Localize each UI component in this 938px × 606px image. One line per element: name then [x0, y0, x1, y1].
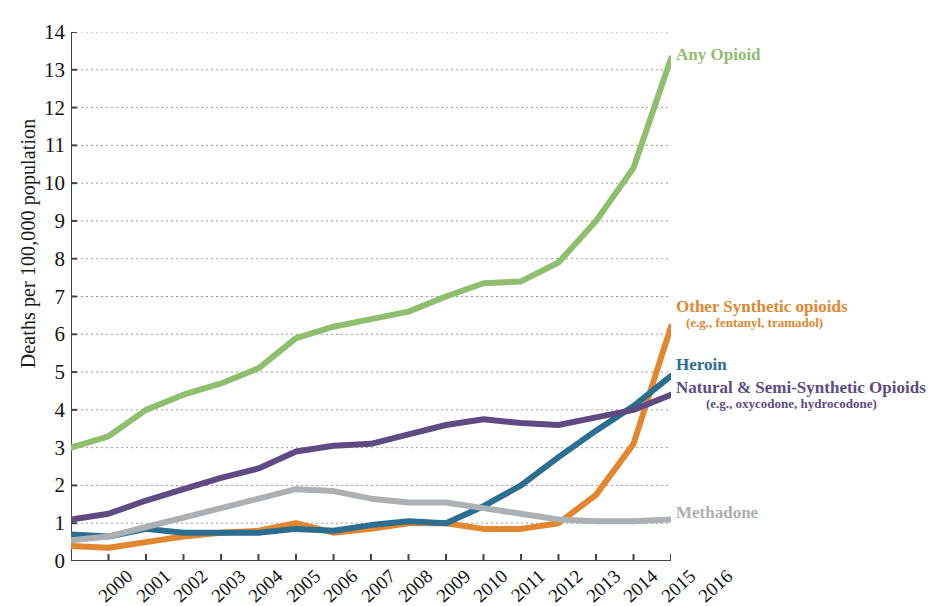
- x-tick-label: 2015: [657, 566, 698, 606]
- y-tick-label: 7: [19, 286, 65, 307]
- y-tick-label: 10: [19, 173, 65, 194]
- series-line-any-opioid: [71, 58, 671, 447]
- y-tick-label: 3: [19, 437, 65, 458]
- x-tick-label: 2007: [357, 566, 398, 606]
- x-tick-label: 2011: [507, 566, 547, 605]
- x-tick-label: 2012: [545, 566, 586, 606]
- series-label-methadone: Methadone: [676, 503, 758, 522]
- plot-svg: [71, 32, 671, 561]
- x-tick-label: 2003: [207, 566, 248, 606]
- x-tick-label: 2000: [95, 566, 136, 606]
- y-tick-label: 11: [19, 135, 65, 156]
- y-tick-label: 9: [19, 210, 65, 231]
- x-tick-label: 2010: [470, 566, 511, 606]
- y-tick-label: 13: [19, 59, 65, 80]
- x-tick-label: 2008: [395, 566, 436, 606]
- series-label-natural-semi-synthetic: Natural & Semi-Synthetic Opioids (e.g., …: [676, 378, 926, 412]
- series-label-other-synthetic: Other Synthetic opioids (e.g., fentanyl,…: [676, 297, 848, 331]
- x-tick-label: 2002: [170, 566, 211, 606]
- series-label-any-opioid: Any Opioid: [676, 45, 761, 64]
- y-tick-label: 8: [19, 248, 65, 269]
- series-label-other-synthetic-text: Other Synthetic opioids: [676, 297, 848, 316]
- x-tick-label: 2016: [695, 566, 736, 606]
- series-label-methadone-text: Methadone: [676, 503, 758, 522]
- x-tick-label: 2005: [282, 566, 323, 606]
- y-tick-label: 14: [19, 22, 65, 43]
- y-tick-label: 6: [19, 324, 65, 345]
- x-tick-label: 2006: [320, 566, 361, 606]
- y-tick-label: 4: [19, 399, 65, 420]
- series-line-other-synthetic-opioids: [71, 327, 671, 548]
- x-tick-label: 2009: [432, 566, 473, 606]
- y-tick-label: 5: [19, 362, 65, 383]
- x-axis-tick-labels: 2000200120022003200420052006200720082009…: [71, 566, 671, 606]
- series-label-natural-text: Natural & Semi-Synthetic Opioids: [676, 378, 926, 397]
- y-tick-label: 1: [19, 513, 65, 534]
- y-tick-label: 2: [19, 475, 65, 496]
- series-label-heroin-text: Heroin: [676, 355, 727, 374]
- x-tick-label: 2001: [132, 566, 173, 606]
- series-label-heroin: Heroin: [676, 355, 727, 374]
- series-label-other-synthetic-sub: (e.g., fentanyl, tramadol): [686, 316, 848, 331]
- x-tick-label: 2014: [620, 566, 661, 606]
- x-tick-label: 2004: [245, 566, 286, 606]
- series-label-any-opioid-text: Any Opioid: [676, 45, 761, 64]
- y-axis-tick-labels: 01234567891011121314: [17, 32, 65, 561]
- series-line-heroin: [71, 376, 671, 537]
- plot-area: [71, 32, 671, 561]
- y-tick-label: 0: [19, 551, 65, 572]
- x-tick-label: 2013: [582, 566, 623, 606]
- y-tick-label: 12: [19, 97, 65, 118]
- series-label-natural-sub: (e.g., oxycodone, hydrocodone): [706, 397, 926, 412]
